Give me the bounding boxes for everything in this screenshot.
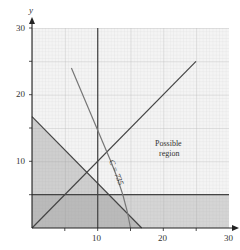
y-tick-30: 30 [16,23,26,33]
region-label-line2: region [159,149,179,158]
y-axis-arrow-icon [29,17,35,24]
linear-programming-chart: y 10 20 30 10 20 30 Possible region C = … [0,0,240,250]
x-tick-30: 30 [224,233,234,243]
x-tick-20: 20 [158,233,168,243]
x-tick-10: 10 [92,233,102,243]
x-axis-arrow-icon [232,225,239,231]
y-axis-label: y [28,5,33,15]
region-label-line1: Possible [155,139,182,148]
y-tick-10: 10 [16,156,26,166]
y-tick-20: 20 [16,89,26,99]
